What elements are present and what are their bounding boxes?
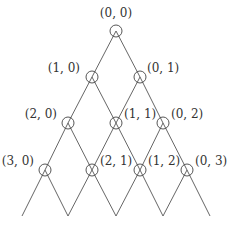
node-label: (2, 0) (25, 107, 57, 121)
edge (68, 123, 92, 170)
edge (68, 170, 92, 216)
node-label: (1, 0) (48, 61, 80, 75)
edge (187, 170, 210, 216)
edge (45, 123, 68, 170)
edges-group (22, 31, 210, 216)
lattice-diagram: (0, 0)(1, 0)(0, 1)(2, 0)(1, 1)(0, 2)(3, … (0, 0, 232, 226)
edge (92, 31, 116, 77)
node-label: (0, 2) (171, 107, 203, 121)
edge (116, 170, 140, 216)
edge (163, 170, 187, 216)
edge (45, 170, 68, 216)
labels-group: (0, 0)(1, 0)(0, 1)(2, 0)(1, 1)(0, 2)(3, … (2, 6, 228, 168)
node-label: (1, 1) (124, 107, 156, 121)
edge (92, 77, 116, 123)
edge (22, 170, 45, 216)
node-label: (0, 3) (195, 154, 227, 168)
edge (140, 170, 163, 216)
node-label: (2, 1) (100, 154, 132, 168)
node-label: (3, 0) (2, 154, 34, 168)
edge (92, 170, 116, 216)
node-label: (0, 0) (100, 6, 132, 20)
edge (116, 31, 140, 77)
node-label: (0, 1) (147, 61, 179, 75)
edge (68, 77, 92, 123)
node-label: (1, 2) (148, 154, 180, 168)
